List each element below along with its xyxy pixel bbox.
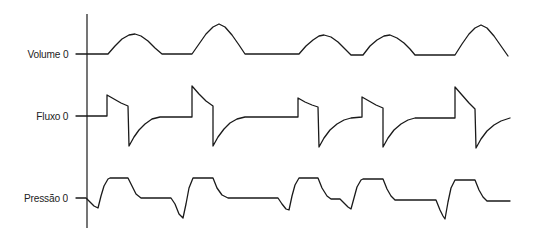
waveform-chart: [0, 0, 539, 246]
flow-trace: [76, 86, 510, 148]
pressure-label: Pressão 0: [24, 191, 68, 205]
volume-trace: [76, 24, 508, 56]
flow-label: Fluxo 0: [36, 109, 68, 123]
pressure-trace: [76, 178, 510, 219]
volume-label: Volume 0: [27, 47, 68, 61]
